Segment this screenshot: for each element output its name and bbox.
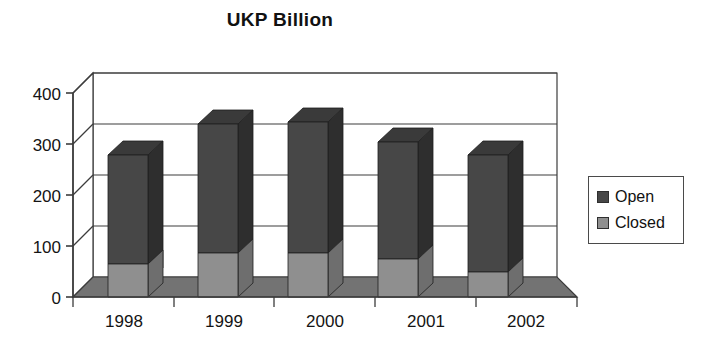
bar-1999-closed-front — [198, 253, 238, 297]
column-1999[interactable] — [198, 110, 253, 297]
x-axis-label-1998: 1998 — [105, 312, 143, 331]
chart-figure: UKP Billion 400 300 200 100 0 — [0, 0, 704, 352]
legend-label-closed: Closed — [615, 214, 665, 232]
legend-item-closed[interactable]: Closed — [597, 210, 683, 236]
bar-2002-open-side — [508, 141, 523, 272]
y-axis-label-300: 300 — [33, 136, 61, 155]
x-axis-label-1999: 1999 — [205, 312, 243, 331]
bar-2001-open-side — [418, 128, 433, 259]
column-2002[interactable] — [468, 141, 523, 297]
bar-2000-closed-front — [288, 253, 328, 297]
y-axis-label-400: 400 — [33, 85, 61, 104]
column-2001[interactable] — [378, 128, 433, 297]
column-1998[interactable] — [108, 141, 163, 297]
bar-2002-closed-front — [468, 272, 508, 297]
bar-2001-closed-front — [378, 259, 418, 297]
x-axis-label-2001: 2001 — [407, 312, 445, 331]
bar-2001-open-front — [378, 142, 418, 259]
y-axis-label-100: 100 — [33, 238, 61, 257]
y-axis-label-0: 0 — [52, 289, 61, 308]
chart-legend: Open Closed — [588, 176, 684, 244]
y-axis-label-200: 200 — [33, 187, 61, 206]
column-2000[interactable] — [288, 108, 343, 297]
bar-2002-open-front — [468, 155, 508, 272]
bar-2000-open-side — [328, 108, 343, 253]
x-axis-label-2002: 2002 — [507, 312, 545, 331]
legend-swatch-closed-icon — [597, 217, 609, 229]
bar-1999-open-front — [198, 124, 238, 253]
bar-1998-open-front — [108, 155, 148, 264]
bar-2000-open-front — [288, 122, 328, 253]
bar-1999-open-side — [238, 110, 253, 253]
x-axis-label-2000: 2000 — [306, 312, 344, 331]
legend-label-open: Open — [615, 188, 654, 206]
bar-1998-closed-front — [108, 264, 148, 297]
legend-item-open[interactable]: Open — [597, 184, 683, 210]
legend-swatch-open-icon — [597, 191, 609, 203]
